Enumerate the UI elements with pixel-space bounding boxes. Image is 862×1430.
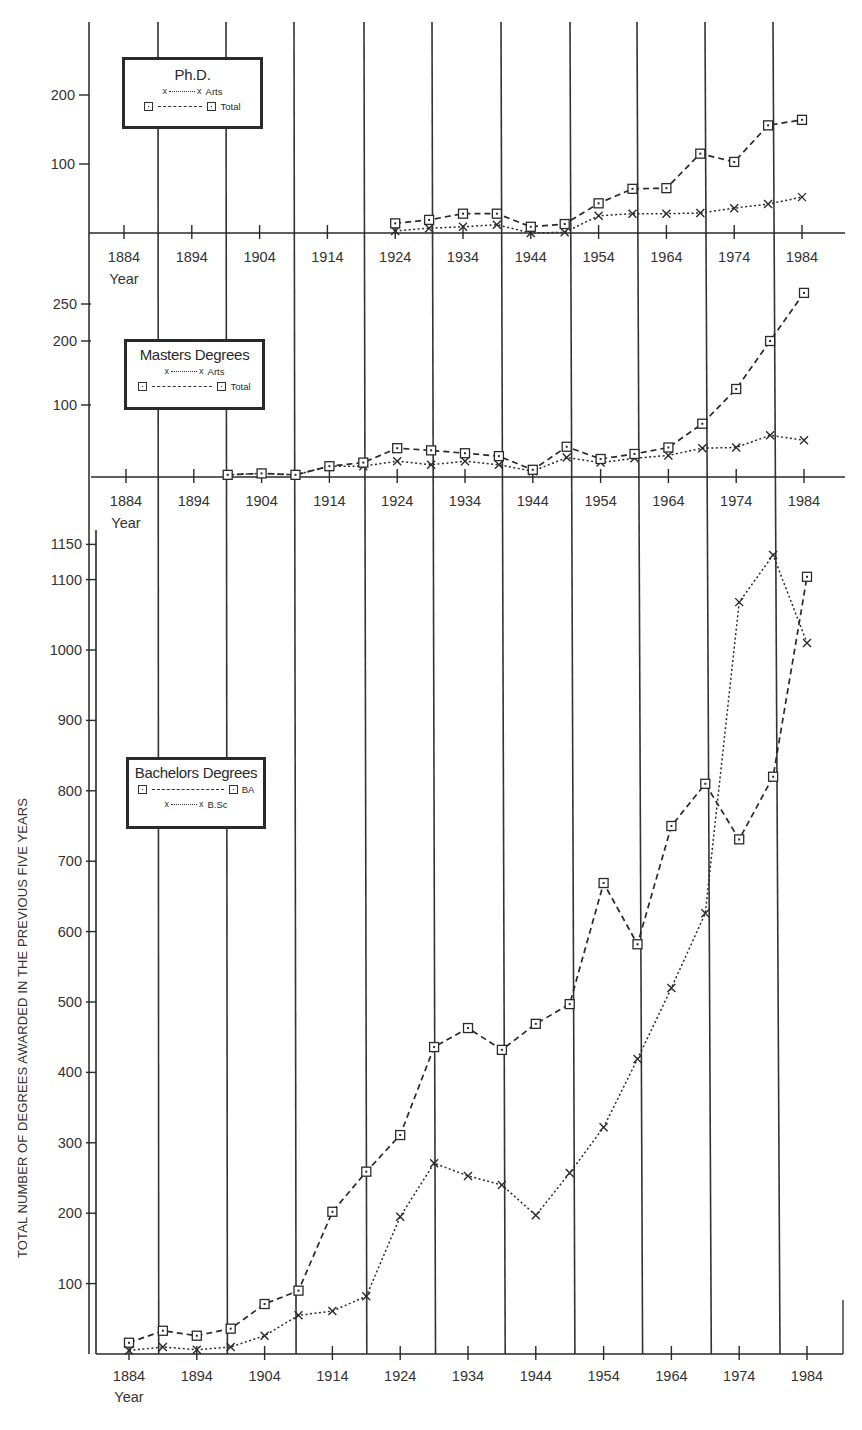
x-marker-icon: x	[164, 797, 169, 812]
x-tick-label: 1984	[788, 493, 820, 509]
bachelors-legend-bsc: xx B.Sc	[129, 797, 263, 812]
grid-line	[705, 22, 711, 1354]
square-marker-dot	[704, 783, 706, 785]
square-marker-dot	[569, 1003, 571, 1005]
x-tick-label: 1914	[311, 249, 343, 265]
x-marker-icon	[634, 1055, 642, 1063]
x-tick-label: 1934	[447, 249, 479, 265]
dotted-line-icon	[171, 804, 197, 805]
square-marker-dot	[769, 340, 771, 342]
square-marker-dot	[566, 446, 568, 448]
masters-legend-arts-label: Arts	[208, 364, 225, 379]
series-line-arts	[228, 435, 804, 475]
square-marker-icon	[138, 382, 147, 391]
x-marker-icon	[595, 212, 603, 220]
x-tick-label: 1944	[515, 249, 547, 265]
square-marker-dot	[399, 1134, 401, 1136]
grid-line	[637, 22, 643, 1354]
masters-legend-title: Masters Degrees	[127, 346, 262, 364]
square-marker-dot	[803, 292, 805, 294]
square-marker-dot	[738, 838, 740, 840]
x-marker-icon: x	[199, 797, 204, 812]
square-marker-dot	[733, 161, 735, 163]
x-marker-icon: x	[199, 364, 204, 379]
x-marker-icon	[430, 1159, 438, 1167]
y-tick-label: 300	[58, 1135, 82, 1151]
y-tick-label: 500	[58, 994, 82, 1010]
y-tick-label: 1100	[51, 572, 82, 588]
y-tick-label: 800	[58, 783, 82, 799]
grid-line	[773, 22, 780, 1354]
phd-legend-total: Total	[125, 99, 260, 114]
grid-line	[570, 22, 575, 1354]
square-marker-dot	[667, 446, 669, 448]
square-marker-dot	[699, 153, 701, 155]
x-tick-label: 1944	[517, 493, 549, 509]
square-marker-dot	[295, 474, 297, 476]
y-tick-label: 900	[58, 712, 82, 728]
x-marker-icon	[803, 639, 811, 647]
dotted-line-icon	[171, 371, 197, 372]
square-marker-dot	[331, 1211, 333, 1213]
bachelors-legend-bsc-label: B.Sc	[207, 797, 227, 812]
chart-root: 1884189419041914192419341944195419641974…	[0, 0, 862, 1430]
square-marker-dot	[467, 1027, 469, 1029]
x-tick-label: 1984	[791, 1368, 823, 1384]
x-marker-icon	[600, 1123, 608, 1131]
y-tick-label: 200	[53, 333, 77, 349]
y-tick-label: 100	[53, 397, 77, 413]
x-tick-label: 1924	[384, 1368, 416, 1384]
masters-legend-total: Total	[127, 379, 262, 394]
square-marker-dot	[735, 388, 737, 390]
grid-line	[364, 22, 367, 1354]
x-marker-icon	[667, 984, 675, 992]
x-tick-label: 1924	[381, 493, 413, 509]
degrees-chart: 1884189419041914192419341944195419641974…	[0, 0, 862, 1430]
series-line-total	[395, 120, 802, 227]
square-marker-dot	[600, 458, 602, 460]
x-tick-label: 1934	[452, 1368, 484, 1384]
y-tick-label: 100	[51, 156, 75, 172]
x-axis-title: Year	[111, 515, 140, 531]
square-marker-dot	[598, 202, 600, 204]
y-tick-label: 600	[58, 924, 82, 940]
x-tick-label: 1884	[108, 249, 140, 265]
bachelors-legend-title: Bachelors Degrees	[129, 764, 263, 782]
x-tick-label: 1904	[245, 493, 277, 509]
series-line-bsc	[129, 555, 807, 1351]
x-tick-label: 1944	[520, 1368, 552, 1384]
x-marker-icon	[735, 598, 743, 606]
square-marker-dot	[196, 1335, 198, 1337]
x-marker-icon: x	[163, 84, 168, 99]
x-axis-title: Year	[109, 271, 138, 287]
square-marker-dot	[498, 455, 500, 457]
x-tick-label: 1974	[723, 1368, 755, 1384]
x-marker-icon: x	[197, 84, 202, 99]
x-tick-label: 1904	[248, 1368, 280, 1384]
y-tick-label: 1000	[50, 642, 82, 658]
square-marker-dot	[396, 447, 398, 449]
grid-line	[158, 22, 159, 1354]
y-tick-label: 200	[58, 1205, 82, 1221]
square-marker-dot	[632, 188, 634, 190]
masters-legend-total-label: Total	[230, 379, 250, 394]
bachelors-legend-ba: BA	[129, 782, 263, 797]
square-marker-dot	[670, 825, 672, 827]
x-tick-label: 1954	[582, 249, 614, 265]
square-marker-dot	[162, 1330, 164, 1332]
square-marker-dot	[433, 1046, 435, 1048]
x-tick-label: 1974	[720, 493, 752, 509]
phd-legend-arts: xx Arts	[125, 84, 260, 99]
square-marker-dot	[603, 882, 605, 884]
x-marker-icon	[764, 200, 772, 208]
bachelors-legend: Bachelors Degrees BA xx B.Sc	[126, 757, 266, 829]
square-marker-dot	[430, 449, 432, 451]
square-marker-dot	[261, 472, 263, 474]
square-marker-dot	[464, 452, 466, 454]
square-marker-dot	[362, 462, 364, 464]
dashed-line-icon	[152, 789, 224, 790]
square-marker-dot	[637, 943, 639, 945]
square-marker-dot	[328, 465, 330, 467]
square-marker-dot	[665, 187, 667, 189]
x-tick-label: 1964	[655, 1368, 687, 1384]
